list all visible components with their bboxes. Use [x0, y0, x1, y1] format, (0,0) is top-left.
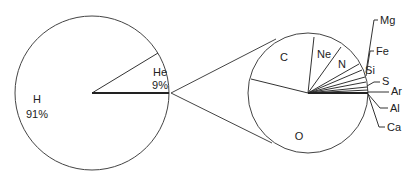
ca-leader [368, 94, 385, 127]
al-label: Al [390, 102, 400, 114]
s-leader [367, 82, 380, 86]
he-percent: 9% [152, 79, 168, 91]
pie-of-pie-chart: He 9% H 91% C Ne N O Si Mg Fe [0, 0, 413, 178]
ne-label: Ne [317, 48, 331, 60]
h-percent: 91% [26, 108, 48, 120]
fe-label: Fe [376, 45, 389, 57]
ar-label: Ar [391, 85, 402, 97]
detail-pie: C Ne N O Si Mg Fe S Ar Al Ca [248, 14, 402, 153]
ca-label: Ca [387, 121, 402, 133]
mg-label: Mg [380, 14, 395, 26]
he-label: He [153, 66, 167, 78]
h-label: H [33, 93, 41, 105]
main-pie: He 9% H 91% [15, 16, 169, 170]
n-label: N [338, 58, 346, 70]
c-label: C [280, 51, 288, 63]
s-label: S [382, 75, 389, 87]
al-leader [368, 94, 388, 108]
o-label: O [295, 130, 304, 142]
